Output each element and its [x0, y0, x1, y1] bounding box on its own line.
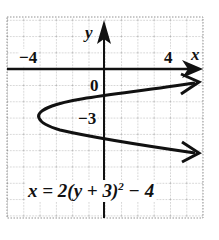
y-axis-label: y	[85, 24, 93, 41]
x-axis-label: x	[191, 46, 200, 63]
tick-label-y-neg3: −3	[78, 110, 96, 127]
tick-label-x-neg4: −4	[19, 49, 37, 66]
equation-label: x = 2(y + 3)2 − 4	[26, 180, 156, 202]
origin-label: 0	[90, 77, 99, 94]
tick-label-x-4: 4	[164, 49, 173, 66]
